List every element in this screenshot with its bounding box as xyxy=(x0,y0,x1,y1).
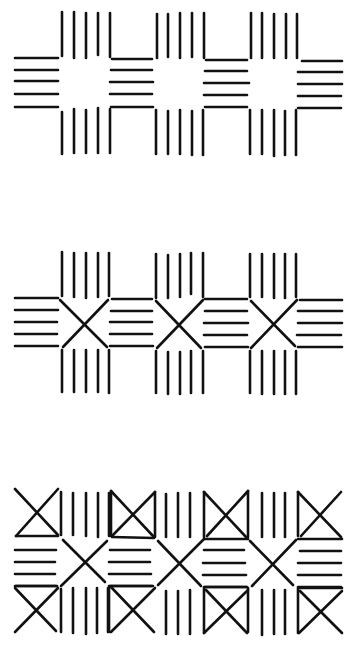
horizontal-group-1 xyxy=(15,298,58,346)
vertical-group-bottom-1 xyxy=(62,350,109,393)
middle-cross-1 xyxy=(61,540,107,586)
vertical-group-bottom-1 xyxy=(62,108,110,154)
bottom-tri-cross-3 xyxy=(204,587,248,633)
horizontal-group-3 xyxy=(204,299,248,347)
top-tri-cross-1 xyxy=(15,489,58,536)
vertical-group-top-1 xyxy=(62,252,109,298)
top-verticals-3 xyxy=(262,493,285,537)
blocks-pattern xyxy=(15,12,342,156)
top-tri-cross-2 xyxy=(111,491,155,538)
top-verticals-1 xyxy=(61,492,109,537)
middle-cross-2 xyxy=(158,539,204,586)
bottom-verticals-2 xyxy=(166,590,190,634)
top-tri-cross-3 xyxy=(204,491,248,539)
bottom-tri-cross-2 xyxy=(109,586,155,632)
bottom-verticals-3 xyxy=(262,590,285,635)
stitch-pattern-figure xyxy=(0,0,347,648)
horizontal-group-2 xyxy=(110,59,153,107)
middle-horizontal-3 xyxy=(203,550,246,587)
vertical-group-bottom-2 xyxy=(156,110,203,155)
cross-1 xyxy=(60,300,108,347)
horizontal-group-2 xyxy=(110,299,153,346)
top-verticals-2 xyxy=(166,493,190,537)
vertical-group-bottom-2 xyxy=(156,351,203,394)
middle-horizontal-2 xyxy=(109,550,152,586)
vertical-group-bottom-3 xyxy=(250,351,296,394)
cross-3 xyxy=(251,300,297,348)
cross-pattern xyxy=(15,252,342,394)
middle-horizontal-4 xyxy=(298,551,341,587)
horizontal-group-3 xyxy=(204,60,249,107)
vertical-group-top-1 xyxy=(62,12,110,58)
vertical-group-top-2 xyxy=(156,253,203,298)
vertical-group-top-3 xyxy=(250,254,296,298)
top-tri-cross-4 xyxy=(298,492,342,539)
middle-horizontal-1 xyxy=(15,550,56,586)
horizontal-group-1 xyxy=(15,58,58,107)
vertical-group-top-3 xyxy=(251,13,297,58)
cross-2 xyxy=(156,300,203,348)
vertical-group-bottom-3 xyxy=(250,110,296,156)
vertical-group-top-2 xyxy=(157,13,204,58)
middle-cross-3 xyxy=(250,540,296,586)
horizontal-group-4 xyxy=(297,300,342,347)
diamond-cross-pattern xyxy=(15,489,342,635)
bottom-verticals-1 xyxy=(61,588,108,634)
horizontal-group-4 xyxy=(298,61,342,108)
bottom-tri-cross-1 xyxy=(15,586,58,632)
bottom-tri-cross-4 xyxy=(298,588,342,633)
